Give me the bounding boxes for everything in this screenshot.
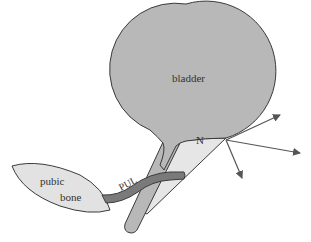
diagram-canvas: bladder N pubic bone PUL (0, 0, 311, 242)
pubic-bone-label-line2: bone (60, 191, 82, 203)
arrow-right (226, 140, 300, 153)
arrow-down (226, 140, 242, 178)
pubic-bone-label-line1: pubic (40, 175, 65, 187)
bladder-label: bladder (172, 72, 205, 84)
neck-point-label: N (196, 134, 204, 146)
bladder-diagram: bladder N pubic bone PUL (0, 0, 311, 242)
pubic-bone (12, 163, 110, 212)
